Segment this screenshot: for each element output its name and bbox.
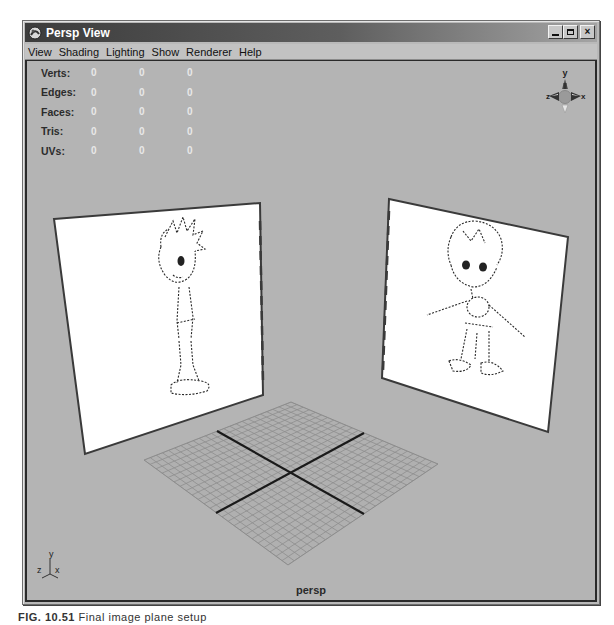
persp-view-window: Persp View × View Shading Lighting Show … bbox=[22, 20, 600, 605]
menu-help[interactable]: Help bbox=[236, 46, 265, 58]
image-plane-side[interactable] bbox=[54, 203, 263, 454]
hud-value: 0 bbox=[187, 87, 235, 98]
maximize-button[interactable] bbox=[563, 25, 578, 39]
hud-row-faces: Faces: 0 0 0 bbox=[41, 102, 235, 122]
hud-value: 0 bbox=[187, 106, 235, 117]
maximize-icon bbox=[567, 29, 574, 35]
axis-x-label: x bbox=[55, 565, 60, 575]
minimize-icon bbox=[552, 34, 559, 36]
axis-indicator: y z x bbox=[35, 548, 65, 582]
minimize-button[interactable] bbox=[548, 25, 563, 39]
menu-lighting[interactable]: Lighting bbox=[103, 46, 148, 58]
menu-renderer[interactable]: Renderer bbox=[183, 46, 235, 58]
axis-y-label: y bbox=[49, 549, 54, 559]
perspective-viewport[interactable]: Verts: 0 0 0 Edges: 0 0 0 Faces: 0 0 0 T… bbox=[25, 60, 597, 602]
maya-app-icon bbox=[28, 26, 42, 40]
hud-value: 0 bbox=[91, 106, 139, 117]
compass-x-label: x bbox=[581, 92, 586, 101]
compass-arrow-down-icon bbox=[562, 105, 568, 113]
title-bar[interactable]: Persp View × bbox=[25, 23, 597, 42]
axis-z-label: z bbox=[37, 565, 42, 575]
figure-number: FIG. 10.51 bbox=[18, 611, 75, 623]
figure-text: Final image plane setup bbox=[79, 611, 207, 623]
hud-value: 0 bbox=[139, 126, 187, 137]
hud-value: 0 bbox=[187, 126, 235, 137]
menu-show[interactable]: Show bbox=[149, 46, 183, 58]
hud-value: 0 bbox=[91, 87, 139, 98]
hud-value: 0 bbox=[91, 67, 139, 78]
axis-z-icon bbox=[42, 574, 50, 578]
compass-arrow-z-icon bbox=[549, 92, 559, 101]
hud-value: 0 bbox=[91, 145, 139, 156]
hud-row-edges: Edges: 0 0 0 bbox=[41, 83, 235, 103]
poly-count-hud: Verts: 0 0 0 Edges: 0 0 0 Faces: 0 0 0 T… bbox=[41, 63, 235, 161]
hud-value: 0 bbox=[187, 67, 235, 78]
hud-label: Verts: bbox=[41, 67, 91, 79]
window-controls: × bbox=[548, 25, 595, 39]
image-plane-front[interactable] bbox=[382, 199, 568, 432]
hud-value: 0 bbox=[91, 126, 139, 137]
hud-value: 0 bbox=[139, 145, 187, 156]
close-button[interactable]: × bbox=[580, 25, 595, 39]
compass-y-label: y bbox=[562, 68, 567, 78]
hud-label: Tris: bbox=[41, 125, 91, 137]
menu-shading[interactable]: Shading bbox=[56, 46, 102, 58]
close-icon: × bbox=[585, 27, 591, 37]
hud-value: 0 bbox=[139, 106, 187, 117]
hud-value: 0 bbox=[139, 87, 187, 98]
view-compass[interactable]: y z x bbox=[543, 67, 589, 117]
compass-arrow-x-icon bbox=[571, 92, 581, 101]
hud-row-verts: Verts: 0 0 0 bbox=[41, 63, 235, 83]
compass-z-label: z bbox=[546, 92, 550, 101]
compass-center-icon bbox=[559, 91, 572, 104]
camera-label: persp bbox=[27, 584, 595, 596]
hud-row-tris: Tris: 0 0 0 bbox=[41, 122, 235, 142]
hud-label: Edges: bbox=[41, 86, 91, 98]
figure-caption: FIG. 10.51 Final image plane setup bbox=[18, 611, 207, 625]
window-title: Persp View bbox=[46, 26, 110, 40]
hud-value: 0 bbox=[187, 145, 235, 156]
hud-label: Faces: bbox=[41, 106, 91, 118]
ground-grid bbox=[144, 402, 438, 565]
hud-label: UVs: bbox=[41, 145, 91, 157]
hud-row-uvs: UVs: 0 0 0 bbox=[41, 141, 235, 161]
hud-value: 0 bbox=[139, 67, 187, 78]
menu-bar: View Shading Lighting Show Renderer Help bbox=[25, 44, 597, 60]
menu-view[interactable]: View bbox=[25, 46, 55, 58]
